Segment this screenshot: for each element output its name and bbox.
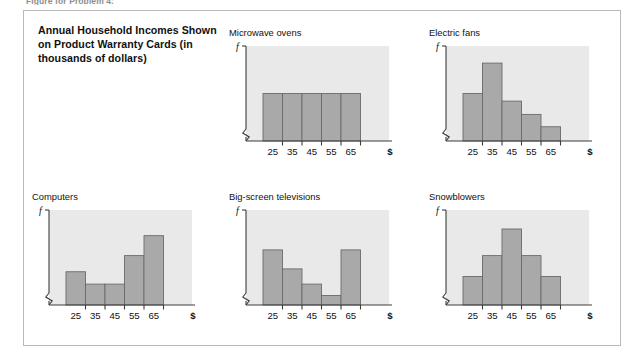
chart-cell-electric-fans: Electric fans 2535455565$f — [429, 27, 604, 179]
svg-text:65: 65 — [545, 146, 556, 157]
svg-text:35: 35 — [287, 310, 298, 321]
svg-text:55: 55 — [326, 146, 337, 157]
chart-plot-snowblowers: 2535455565$f — [429, 204, 597, 336]
svg-text:$: $ — [387, 310, 393, 321]
figure-root: Figure for Problem 4: Annual Household I… — [0, 0, 642, 358]
chart-title: Electric fans — [429, 27, 480, 38]
svg-text:25: 25 — [267, 146, 278, 157]
chart-plot-computers: 2535455565$f — [32, 204, 200, 336]
chart-title: Big-screen televisions — [229, 191, 320, 202]
svg-text:35: 35 — [487, 146, 498, 157]
chart-cell-big-screen-televisions: Big-screen televisions 2535455565$f — [229, 191, 404, 343]
svg-text:f: f — [236, 205, 240, 216]
svg-text:f: f — [236, 41, 240, 52]
svg-text:25: 25 — [467, 310, 478, 321]
svg-text:25: 25 — [267, 310, 278, 321]
chart-cell-snowblowers: Snowblowers 2535455565$f — [429, 191, 604, 343]
svg-text:65: 65 — [148, 310, 159, 321]
svg-text:65: 65 — [345, 146, 356, 157]
chart-plot-electric-fans: 2535455565$f — [429, 40, 597, 172]
svg-text:f: f — [436, 41, 440, 52]
svg-text:35: 35 — [90, 310, 101, 321]
figure-panel: Annual Household Incomes Shown on Produc… — [23, 10, 621, 346]
svg-text:65: 65 — [345, 310, 356, 321]
chart-plot-microwave-ovens: 2535455565$f — [229, 40, 397, 172]
svg-text:35: 35 — [487, 310, 498, 321]
chart-title: Computers — [32, 191, 78, 202]
svg-text:45: 45 — [306, 146, 317, 157]
svg-text:35: 35 — [287, 146, 298, 157]
chart-cell-computers: Computers 2535455565$f — [32, 191, 207, 343]
svg-text:45: 45 — [506, 146, 517, 157]
svg-text:$: $ — [587, 146, 593, 157]
svg-text:45: 45 — [109, 310, 120, 321]
running-head: Figure for Problem 4: — [26, 0, 114, 5]
svg-text:45: 45 — [506, 310, 517, 321]
svg-text:65: 65 — [545, 310, 556, 321]
chart-grid: Annual Household Incomes Shown on Produc… — [24, 11, 620, 345]
chart-title: Snowblowers — [429, 191, 485, 202]
svg-text:$: $ — [190, 310, 196, 321]
svg-text:45: 45 — [306, 310, 317, 321]
svg-text:55: 55 — [526, 146, 537, 157]
svg-text:f: f — [39, 205, 43, 216]
svg-text:55: 55 — [526, 310, 537, 321]
chart-title: Microwave ovens — [229, 27, 301, 38]
svg-text:55: 55 — [326, 310, 337, 321]
chart-cell-microwave-ovens: Microwave ovens 2535455565$f — [229, 27, 404, 179]
chart-plot-big-screen-televisions: 2535455565$f — [229, 204, 397, 336]
svg-text:$: $ — [387, 146, 393, 157]
svg-text:f: f — [436, 205, 440, 216]
svg-text:25: 25 — [467, 146, 478, 157]
svg-text:55: 55 — [129, 310, 140, 321]
svg-text:$: $ — [587, 310, 593, 321]
figure-caption: Annual Household Incomes Shown on Produc… — [38, 23, 224, 66]
svg-text:25: 25 — [70, 310, 81, 321]
caption-cell: Annual Household Incomes Shown on Produc… — [24, 11, 229, 179]
